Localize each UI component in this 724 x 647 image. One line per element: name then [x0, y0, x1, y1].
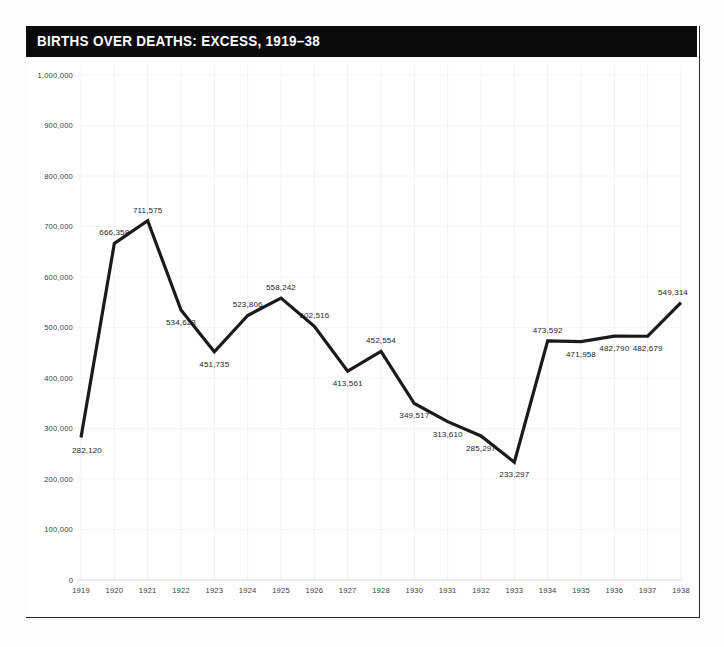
data-point-label: 711,575 — [133, 206, 163, 215]
y-axis-tick-label: 700,000 — [44, 222, 73, 231]
data-point-label: 413,561 — [333, 379, 363, 388]
data-point-label: 482,679 — [633, 344, 663, 353]
x-axis-tick-label: 1934 — [539, 586, 557, 595]
y-axis-tick-label: 600,000 — [44, 273, 73, 282]
page-root: BIRTHS OVER DEATHS: EXCESS, 1919–38 0100… — [0, 0, 724, 647]
data-point-label: 285,297 — [466, 444, 496, 453]
x-axis-tick-label: 1935 — [572, 586, 590, 595]
data-point-label: 471,958 — [566, 350, 596, 359]
x-axis-tick-label: 1930 — [405, 586, 423, 595]
x-axis-tick-label: 1923 — [205, 586, 223, 595]
y-axis-tick-label: 400,000 — [44, 374, 73, 383]
data-point-label: 523,806 — [233, 300, 263, 309]
horizontal-gridlines — [77, 75, 681, 530]
x-axis-tick-labels: 1919192019211922192319241925192619271928… — [72, 586, 690, 595]
y-axis-tick-label: 500,000 — [44, 323, 73, 332]
data-point-label: 233,297 — [499, 470, 529, 479]
y-axis-tick-label: 900,000 — [44, 121, 73, 130]
x-axis-tick-label: 1924 — [239, 586, 257, 595]
data-point-label: 534,623 — [166, 318, 196, 327]
data-point-labels: 282,120666,358711,575534,623451,735523,8… — [72, 206, 688, 480]
y-axis-tick-label: 1,000,000 — [37, 71, 73, 80]
data-point-label: 473,592 — [533, 326, 563, 335]
x-axis-tick-label: 1931 — [439, 586, 457, 595]
x-axis-tick-label: 1925 — [272, 586, 290, 595]
x-axis-tick-label: 1937 — [639, 586, 657, 595]
data-point-label: 451,735 — [199, 360, 229, 369]
chart-plot-area: 0100,000200,000300,000400,000500,000600,… — [26, 57, 697, 616]
x-axis-tick-label: 1920 — [105, 586, 123, 595]
x-axis-tick-label: 1926 — [305, 586, 323, 595]
y-axis-tick-labels: 0100,000200,000300,000400,000500,000600,… — [37, 71, 73, 585]
x-axis-tick-label: 1921 — [139, 586, 157, 595]
chart-title-bar: BIRTHS OVER DEATHS: EXCESS, 1919–38 — [26, 26, 697, 57]
x-axis-tick-label: 1938 — [672, 586, 690, 595]
data-point-label: 666,358 — [99, 228, 129, 237]
y-axis-tick-label: 0 — [69, 576, 73, 585]
chart-card: BIRTHS OVER DEATHS: EXCESS, 1919–38 0100… — [26, 26, 700, 618]
y-axis-tick-label: 200,000 — [44, 475, 73, 484]
data-point-label: 282,120 — [72, 446, 102, 455]
y-axis-tick-label: 300,000 — [44, 424, 73, 433]
x-axis-tick-label: 1932 — [472, 586, 490, 595]
data-point-label: 502,516 — [299, 311, 329, 320]
data-point-label: 349,517 — [399, 411, 429, 420]
data-point-label: 558,242 — [266, 283, 296, 292]
data-point-label: 313,610 — [433, 430, 463, 439]
y-axis-tick-label: 100,000 — [44, 525, 73, 534]
page-title: BIRTHS OVER DEATHS: EXCESS, 1919–38 — [37, 33, 320, 49]
x-axis-tick-label: 1928 — [372, 586, 390, 595]
x-axis-tick-label: 1933 — [505, 586, 523, 595]
x-axis-tick-label: 1927 — [339, 586, 357, 595]
y-axis-tick-label: 800,000 — [44, 172, 73, 181]
line-chart: 0100,000200,000300,000400,000500,000600,… — [26, 57, 697, 616]
x-axis-tick-label: 1936 — [605, 586, 623, 595]
data-point-label: 549,314 — [658, 288, 688, 297]
data-point-label: 482,790 — [599, 344, 629, 353]
x-axis-tick-label: 1922 — [172, 586, 190, 595]
data-point-label: 452,554 — [366, 336, 396, 345]
x-axis-tick-label: 1919 — [72, 586, 90, 595]
